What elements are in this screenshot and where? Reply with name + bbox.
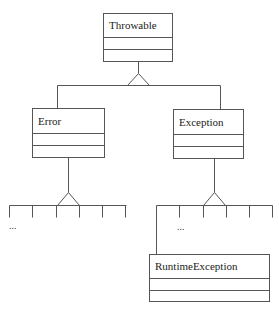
class-runtime-exception-name: RuntimeException [155, 260, 238, 272]
class-error-name: Error [38, 115, 62, 127]
class-throwable-name: Throwable [109, 19, 157, 31]
class-error: Error [33, 109, 105, 158]
class-exception: Exception [174, 110, 244, 159]
class-hierarchy-diagram: Throwable Error ... Exception [0, 0, 279, 310]
generalization-throwable [58, 62, 221, 110]
exception-subclasses-ellipsis: ... [177, 221, 185, 232]
error-subclasses-ellipsis: ... [9, 220, 17, 231]
class-throwable: Throwable [104, 14, 173, 62]
class-runtime-exception: RuntimeException [150, 255, 270, 302]
generalization-error-subclasses: ... [9, 158, 127, 232]
generalization-arrow-icon [204, 193, 226, 206]
class-exception-name: Exception [179, 116, 224, 128]
generalization-exception-subclasses: ... [157, 159, 273, 255]
generalization-arrow-icon [128, 74, 150, 86]
generalization-arrow-icon [58, 193, 80, 206]
